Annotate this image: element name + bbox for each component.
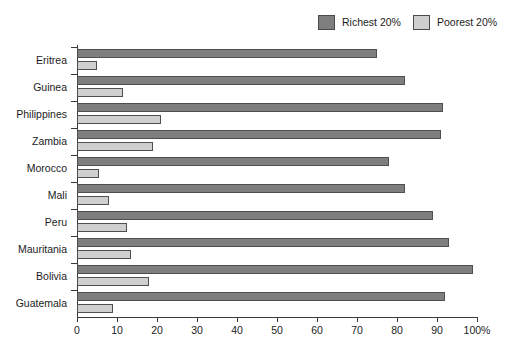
x-axis-tick-label: 90 <box>431 324 443 336</box>
legend-entry-poorest: Poorest 20% <box>413 15 497 30</box>
y-axis-tick-mark <box>71 182 77 183</box>
y-axis-tick-label: Peru <box>45 217 67 228</box>
bar-richest <box>77 292 445 301</box>
bar-group <box>77 209 477 236</box>
x-axis-tick-mark <box>397 317 398 322</box>
bar-poorest <box>77 142 153 151</box>
y-axis-tick-mark <box>71 47 77 48</box>
bar-group <box>77 290 477 317</box>
bar-group <box>77 128 477 155</box>
x-axis-tick-label: 70 <box>351 324 363 336</box>
bar-poorest <box>77 196 109 205</box>
bar-richest <box>77 265 473 274</box>
x-axis-tick-label: 20 <box>151 324 163 336</box>
bar-richest <box>77 157 389 166</box>
x-axis-tick-mark <box>117 317 118 322</box>
bar-richest <box>77 49 377 58</box>
y-axis-tick-label: Mauritania <box>18 244 67 255</box>
x-axis-tick-mark <box>277 317 278 322</box>
bar-group <box>77 47 477 74</box>
y-axis-tick-label: Bolivia <box>36 271 67 282</box>
bar-poorest <box>77 61 97 70</box>
x-axis-tick-label: 40 <box>231 324 243 336</box>
bar-group <box>77 263 477 290</box>
chart-legend: Richest 20% Poorest 20% <box>318 13 497 31</box>
y-axis-tick-label: Zambia <box>32 136 67 147</box>
bar-richest <box>77 184 405 193</box>
y-axis-tick-label: Morocco <box>27 163 67 174</box>
y-axis-tick-mark <box>71 74 77 75</box>
y-axis-tick-mark <box>71 236 77 237</box>
legend-swatch-poorest-icon <box>413 15 430 30</box>
y-axis-tick-mark <box>71 128 77 129</box>
bar-poorest <box>77 88 123 97</box>
bar-group <box>77 74 477 101</box>
x-axis-tick-label: 60 <box>311 324 323 336</box>
bar-chart: Richest 20% Poorest 20% EritreaGuineaPhi… <box>0 0 520 353</box>
legend-swatch-richest-icon <box>318 15 335 30</box>
y-axis-tick-label: Guatemala <box>16 298 67 309</box>
x-axis-tick-label: 10 <box>111 324 123 336</box>
x-axis-tick-label: 100% <box>464 324 491 336</box>
plot-area <box>77 47 477 317</box>
bar-richest <box>77 76 405 85</box>
y-axis-tick-mark <box>71 290 77 291</box>
y-axis-tick-mark <box>71 155 77 156</box>
x-axis-tick-mark <box>317 317 318 322</box>
x-axis-tick-label: 80 <box>391 324 403 336</box>
y-axis-tick-label: Mali <box>48 190 67 201</box>
bar-group <box>77 182 477 209</box>
x-axis-tick-mark <box>157 317 158 322</box>
bar-poorest <box>77 115 161 124</box>
y-axis-tick-label: Guinea <box>33 82 67 93</box>
x-axis-tick-mark <box>357 317 358 322</box>
legend-entry-richest: Richest 20% <box>318 15 401 30</box>
y-axis-tick-label: Eritrea <box>36 55 67 66</box>
bar-group <box>77 101 477 128</box>
bar-richest <box>77 130 441 139</box>
x-axis-tick-mark <box>237 317 238 322</box>
y-axis-tick-mark <box>71 263 77 264</box>
x-axis-tick-mark <box>437 317 438 322</box>
y-axis-tick-mark <box>71 209 77 210</box>
bar-poorest <box>77 250 131 259</box>
bar-poorest <box>77 304 113 313</box>
x-axis-tick-mark <box>77 317 78 322</box>
x-axis-tick-label: 0 <box>74 324 80 336</box>
x-axis-tick-mark <box>477 317 478 322</box>
bar-poorest <box>77 277 149 286</box>
bar-richest <box>77 211 433 220</box>
y-axis-tick-label: Philippines <box>16 109 67 120</box>
x-axis-tick-mark <box>197 317 198 322</box>
bar-richest <box>77 103 443 112</box>
legend-label-richest: Richest 20% <box>342 17 401 28</box>
x-axis-tick-label: 30 <box>191 324 203 336</box>
y-axis-tick-mark <box>71 101 77 102</box>
bar-group <box>77 155 477 182</box>
bar-richest <box>77 238 449 247</box>
bar-poorest <box>77 223 127 232</box>
y-axis-labels: EritreaGuineaPhilippinesZambiaMoroccoMal… <box>0 47 72 317</box>
bar-group <box>77 236 477 263</box>
x-axis-tick-label: 50 <box>271 324 283 336</box>
legend-label-poorest: Poorest 20% <box>437 17 497 28</box>
bar-poorest <box>77 169 99 178</box>
